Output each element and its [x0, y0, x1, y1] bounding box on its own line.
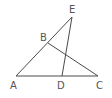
label-b: B [40, 32, 47, 43]
segment-BC [48, 43, 98, 76]
label-a: A [10, 80, 17, 91]
label-e: E [69, 4, 75, 15]
label-d: D [57, 80, 65, 91]
geometry-diagram: A B C D E [0, 0, 112, 98]
label-c: C [96, 80, 103, 91]
